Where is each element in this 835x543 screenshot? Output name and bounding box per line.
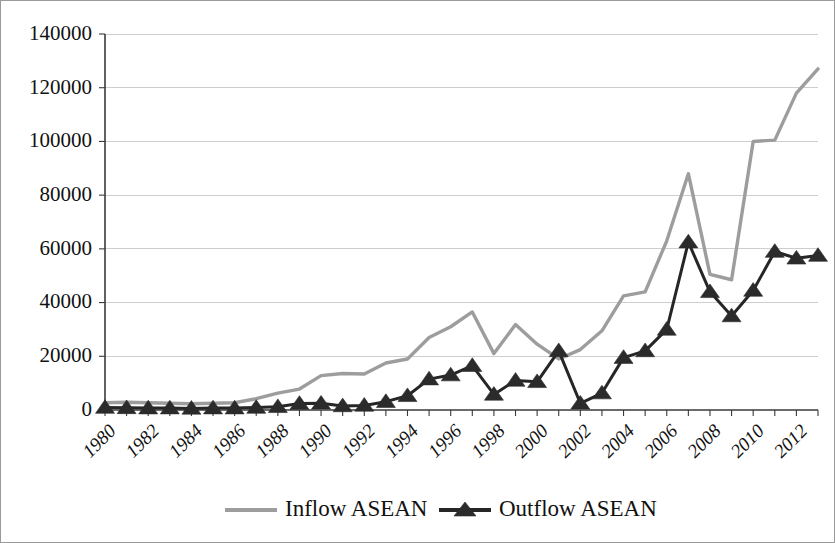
data-point-marker (809, 248, 828, 262)
x-axis-tick-label: 1994 (381, 420, 423, 462)
x-axis-tick-label: 2004 (597, 420, 639, 462)
series-line-outflow (105, 242, 818, 408)
data-point-marker (679, 234, 698, 248)
legend-label: Outflow ASEAN (499, 496, 657, 521)
y-axis-tick-label: 100000 (29, 128, 92, 152)
data-point-marker (441, 367, 460, 381)
y-axis-tick-label: 60000 (40, 236, 93, 260)
x-axis-tick-label: 1980 (78, 420, 120, 462)
chart-legend: Inflow ASEANOutflow ASEAN (225, 496, 657, 521)
data-point-marker (700, 284, 719, 298)
x-axis-tick-label: 1996 (424, 420, 466, 462)
data-point-marker (571, 395, 590, 409)
data-point-marker (744, 283, 763, 297)
series-markers-outflow (96, 234, 828, 414)
legend-label: Inflow ASEAN (285, 496, 428, 521)
y-axis-tick-label: 20000 (40, 343, 93, 367)
x-axis-tick-label: 2006 (640, 420, 682, 462)
gridlines (105, 34, 818, 356)
x-axis-tick-label: 1984 (165, 420, 207, 462)
y-axis-tick-label: 80000 (40, 182, 93, 206)
line-chart: 020000400006000080000100000120000140000 … (1, 1, 835, 543)
x-axis-tick-label: 2012 (770, 420, 812, 462)
x-axis-tick-label: 2008 (683, 420, 725, 462)
x-axis-tick-label: 1982 (121, 420, 163, 462)
y-axis-tick-label: 0 (82, 397, 93, 421)
chart-container: 020000400006000080000100000120000140000 … (0, 0, 835, 543)
y-axis-tick-label: 140000 (29, 21, 92, 45)
y-axis-tick-label: 40000 (40, 289, 93, 313)
y-axis-tick-labels: 020000400006000080000100000120000140000 (29, 21, 92, 421)
series-line-inflow (105, 69, 818, 404)
x-axis-tick-label: 1988 (251, 420, 293, 462)
data-point-marker (657, 322, 676, 336)
x-axis-tick-labels: 1980198219841986198819901992199419961998… (78, 420, 811, 462)
x-axis-tick-label: 1992 (337, 420, 379, 462)
x-axis-tick-label: 1998 (467, 420, 509, 462)
data-point-marker (463, 358, 482, 372)
x-axis-tick-label: 2002 (553, 420, 595, 462)
x-axis-tick-label: 2010 (726, 420, 768, 462)
x-axis-tick-label: 1986 (208, 420, 250, 462)
y-axis-tick-marks (99, 34, 105, 410)
x-axis-tick-label: 1990 (294, 420, 336, 462)
data-point-marker (549, 343, 568, 357)
data-point-marker (765, 244, 784, 258)
x-axis-tick-label: 2000 (510, 420, 552, 462)
y-axis-tick-label: 120000 (29, 75, 92, 99)
data-point-marker (592, 385, 611, 399)
